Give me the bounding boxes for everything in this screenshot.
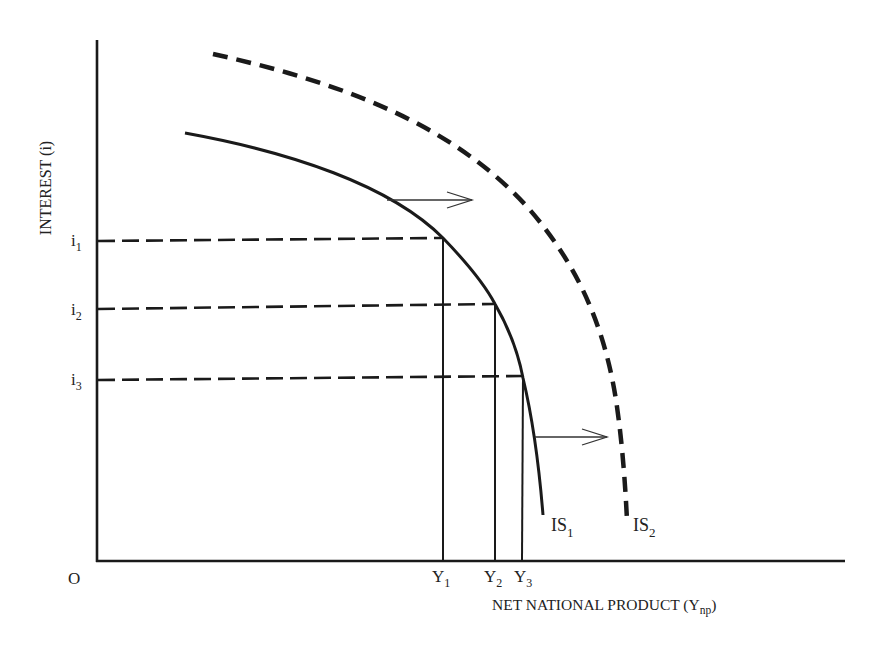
- guide-i2: [98, 304, 494, 309]
- y-axis-label: INTEREST (i): [37, 141, 55, 235]
- tick-y1: Y1: [432, 567, 450, 590]
- guide-i1: [98, 238, 442, 241]
- guide-i3: [98, 376, 522, 380]
- tick-i2: i2: [71, 300, 82, 323]
- tick-i1: i1: [71, 231, 82, 254]
- tick-y2: Y2: [484, 567, 502, 590]
- tick-i3: i3: [71, 370, 82, 393]
- is2-curve: [213, 54, 627, 520]
- is1-label: IS1: [551, 515, 574, 540]
- guide-y3: [522, 377, 523, 561]
- shift-arrow-lower-icon: [535, 429, 607, 445]
- is2-label: IS2: [633, 515, 656, 540]
- tick-y3: Y3: [514, 567, 532, 590]
- origin-label: O: [68, 569, 80, 588]
- is1-curve: [185, 133, 543, 515]
- x-axis-label: NET NATIONAL PRODUCT (Ynp): [492, 596, 716, 617]
- is-curve-diagram: INTEREST (i) i1 i2 i3 O Y1 Y2 Y3 IS1 IS2…: [0, 0, 884, 646]
